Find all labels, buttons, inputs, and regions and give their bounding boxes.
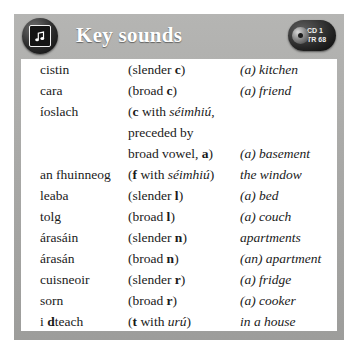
music-note-icon [22,18,58,54]
table-row: cara(broad c)(a) friend [21,80,337,101]
sound-gloss: (a) fridge [240,269,337,290]
music-note-glyph [29,25,51,47]
sound-word: an fhuinneog [21,164,128,185]
table-row: sorn(broad r)(a) cooker [21,290,337,311]
sound-rule: (c with séimhiú,preceded bybroad vowel, … [128,101,240,164]
sound-gloss: (a) basement [240,101,337,164]
sound-word: íoslach [21,101,128,164]
sound-gloss: apartments [240,227,337,248]
table-row: íoslach(c with séimhiú,preceded bybroad … [21,101,337,164]
sound-word: cuisneoir [21,269,128,290]
sound-rule: (slender r) [128,269,240,290]
table-row: an fhuinneog(f with séimhiú)the window [21,164,337,185]
sound-gloss: (a) couch [240,206,337,227]
page-title: Key sounds [76,23,182,48]
sound-gloss: in a house [240,311,337,331]
sounds-sheet: cistin(slender c)(a) kitchencara(broad c… [21,59,337,331]
sound-gloss: (a) cooker [240,290,337,311]
table-row: cuisneoir(slender r)(a) fridge [21,269,337,290]
sound-gloss: (an) apartment [240,248,337,269]
sound-word: leaba [21,185,128,206]
sound-rule: (broad r) [128,290,240,311]
cd-number: CD 1 [307,27,323,34]
sound-word: árasáin [21,227,128,248]
sound-word: cistin [21,59,128,80]
cd-disc-icon [292,27,309,44]
table-row: cistin(slender c)(a) kitchen [21,59,337,80]
sound-gloss: (a) friend [240,80,337,101]
sound-word: i dteach [21,311,128,331]
sound-rule: (t with urú) [128,311,240,331]
sound-gloss: the window [240,164,337,185]
track-number: TR 68 [307,36,326,43]
sound-word: árasán [21,248,128,269]
key-sounds-table: cistin(slender c)(a) kitchencara(broad c… [21,59,337,331]
sound-rule: (f with séimhiú) [128,164,240,185]
sound-gloss: (a) kitchen [240,59,337,80]
table-row: árasán(broad n)(an) apartment [21,248,337,269]
table-row: tolg(broad l)(a) couch [21,206,337,227]
sound-gloss: (a) bed [240,185,337,206]
sound-rule: (slender l) [128,185,240,206]
table-row: leaba(slender l)(a) bed [21,185,337,206]
sound-word: tolg [21,206,128,227]
cd-track-badge: CD 1 TR 68 [288,20,336,51]
cd-track-text: CD 1 TR 68 [307,27,331,44]
sound-rule: (broad n) [128,248,240,269]
key-sounds-body: cistin(slender c)(a) kitchencara(broad c… [21,59,337,331]
key-sounds-panel: Key sounds CD 1 TR 68 cistin(slender c)(… [14,14,344,340]
sound-word: sorn [21,290,128,311]
sound-word: cara [21,80,128,101]
table-row: árasáin(slender n)apartments [21,227,337,248]
sound-rule: (slender c) [128,59,240,80]
panel-titlebar: Key sounds CD 1 TR 68 [14,14,344,59]
sound-rule: (broad l) [128,206,240,227]
sound-rule: (slender n) [128,227,240,248]
table-row: i dteach(t with urú)in a house [21,311,337,331]
sound-rule: (broad c) [128,80,240,101]
